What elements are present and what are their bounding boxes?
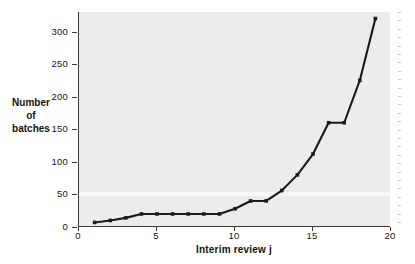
y-tick-mark — [72, 97, 77, 98]
x-axis-title: Interim review j — [78, 244, 390, 255]
y-tick-label: 250 — [52, 58, 68, 69]
data-point-marker — [374, 17, 378, 21]
y-axis-title-line: batches — [2, 122, 60, 135]
y-axis-title: Numberofbatches — [2, 96, 60, 135]
y-tick-label: 100 — [52, 156, 68, 167]
y-axis-title-line: of — [2, 109, 60, 122]
minor-tick — [398, 12, 401, 13]
data-point-marker — [93, 221, 97, 225]
minor-tick — [398, 197, 401, 198]
minor-tick — [398, 20, 401, 21]
data-point-marker — [342, 121, 346, 125]
x-tick-mark — [234, 227, 235, 231]
data-point-marker — [264, 199, 268, 203]
minor-tick — [398, 88, 401, 89]
minor-tick — [398, 121, 401, 122]
minor-tick — [398, 37, 401, 38]
minor-tick — [398, 46, 401, 47]
y-axis-title-line: Number — [2, 96, 60, 109]
minor-tick — [398, 188, 401, 189]
data-point-marker — [155, 212, 159, 216]
series-polyline — [95, 19, 376, 223]
y-tick-label: 300 — [52, 26, 68, 37]
minor-tick — [398, 130, 401, 131]
data-point-marker — [140, 212, 144, 216]
minor-tick — [398, 155, 401, 156]
y-tick-mark — [72, 194, 77, 195]
minor-tick — [398, 54, 401, 55]
data-point-marker — [280, 189, 284, 193]
minor-tick — [398, 138, 401, 139]
minor-tick — [398, 180, 401, 181]
x-axis-tick-labels: 05101520 — [0, 230, 415, 244]
minor-tick — [398, 172, 401, 173]
data-point-marker — [124, 216, 128, 220]
minor-tick — [398, 96, 401, 97]
x-tick-label: 10 — [229, 230, 240, 241]
x-tick-mark — [312, 227, 313, 231]
minor-tick — [398, 62, 401, 63]
x-tick-mark — [156, 227, 157, 231]
minor-tick — [398, 29, 401, 30]
data-point-marker — [327, 121, 331, 125]
plot-area — [78, 12, 390, 227]
minor-tick — [398, 79, 401, 80]
y-tick-mark — [72, 227, 77, 228]
data-point-marker — [108, 219, 112, 223]
data-point-marker — [311, 152, 315, 156]
x-tick-label: 15 — [307, 230, 318, 241]
minor-tick — [398, 163, 401, 164]
minor-tick — [398, 146, 401, 147]
data-point-marker — [186, 212, 190, 216]
data-point-marker — [358, 79, 362, 83]
data-point-marker — [249, 199, 253, 203]
y-tick-mark — [72, 162, 77, 163]
data-point-marker — [218, 212, 222, 216]
minor-tick — [398, 205, 401, 206]
data-point-marker — [296, 173, 300, 177]
y-tick-mark — [72, 32, 77, 33]
minor-tick — [398, 71, 401, 72]
chart-figure: 050100150200250300 05101520 Numberofbatc… — [0, 0, 415, 264]
x-tick-mark — [78, 227, 79, 231]
minor-tick — [398, 104, 401, 105]
data-point-marker — [171, 212, 175, 216]
minor-tick — [398, 222, 401, 223]
x-tick-label: 5 — [153, 230, 158, 241]
y-tick-mark — [72, 129, 77, 130]
data-point-marker — [233, 207, 237, 211]
minor-tick — [398, 214, 401, 215]
data-point-marker — [202, 212, 206, 216]
x-tick-mark — [390, 227, 391, 231]
x-tick-label: 20 — [385, 230, 396, 241]
data-series-line — [79, 12, 391, 227]
y-tick-mark — [72, 64, 77, 65]
y-tick-label: 50 — [57, 188, 68, 199]
x-tick-label: 0 — [75, 230, 80, 241]
minor-tick — [398, 113, 401, 114]
right-edge-tick-column — [398, 12, 402, 227]
